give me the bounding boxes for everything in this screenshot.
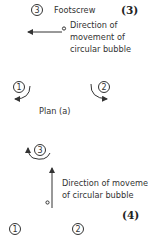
direction-text-line-2: movement of [70,32,126,42]
figure-label-3: (3) [121,4,138,16]
footscrew-1-number: 1 [12,225,17,234]
footscrew-2-number: 2 [75,225,80,234]
levelling-diagram: 3 Footscrew (3) Direction of movement of… [0,0,148,237]
plan-a: Direction of movement of circular bubble… [14,20,132,116]
footscrew-legend: 3 Footscrew (3) [32,4,139,16]
footscrew-3-number: 3 [37,146,42,155]
plan-a-caption: Plan (a) [39,106,70,116]
figure-label-4: (4) [122,209,139,221]
direction-text-line-1: Direction of movement [62,178,148,188]
footscrew-legend-number: 3 [34,6,39,15]
direction-text-line-3: circular bubble [70,44,131,54]
direction-text-line-2: of circular bubble [62,190,134,200]
footscrew-1-number: 1 [16,83,21,92]
bubble-circle-icon [62,27,65,30]
plan-b: 3 Direction of movement of circular bubb… [10,145,149,235]
bubble-circle-icon [46,201,49,204]
footscrew-2-number: 2 [101,83,106,92]
footscrew-label: Footscrew [54,5,96,15]
direction-text-line-1: Direction of [70,20,119,30]
